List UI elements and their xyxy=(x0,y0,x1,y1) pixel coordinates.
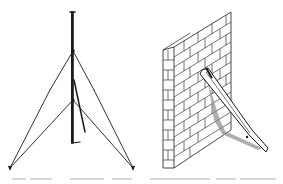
secondary-pole xyxy=(74,80,85,132)
illustration xyxy=(0,0,283,184)
wall-panel xyxy=(163,12,268,168)
caption-fragments xyxy=(0,176,283,184)
anchor-right xyxy=(131,166,135,171)
anchor-left xyxy=(8,166,12,171)
mast-pole xyxy=(70,12,80,143)
mast-panel xyxy=(8,12,135,171)
